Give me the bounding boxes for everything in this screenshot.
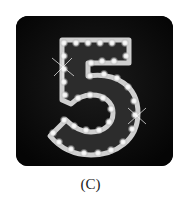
marquee-five-tile bbox=[16, 16, 173, 166]
marquee-five-icon bbox=[16, 16, 173, 166]
figure-caption: (C) bbox=[0, 176, 181, 193]
